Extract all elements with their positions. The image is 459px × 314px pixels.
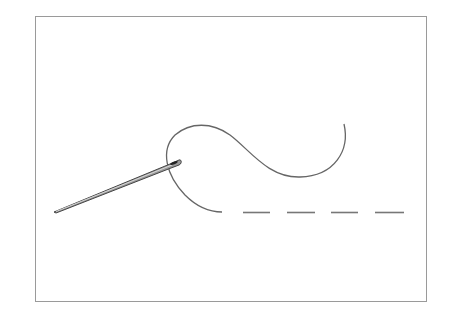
thread-curve	[167, 124, 346, 212]
needle-thread-illustration	[0, 0, 459, 314]
needle-icon	[54, 160, 181, 213]
